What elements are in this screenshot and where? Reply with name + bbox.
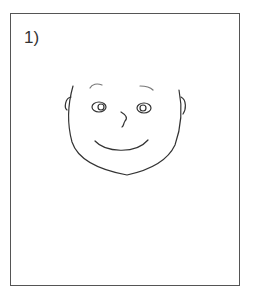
smile-mouth	[95, 140, 148, 150]
right-eyebrow	[140, 86, 153, 90]
right-eye-icon	[137, 103, 151, 113]
head-outline	[69, 86, 181, 175]
left-eyebrow	[90, 84, 102, 88]
nose	[121, 112, 126, 127]
face-drawing	[0, 0, 253, 294]
right-ear-icon	[181, 97, 185, 114]
